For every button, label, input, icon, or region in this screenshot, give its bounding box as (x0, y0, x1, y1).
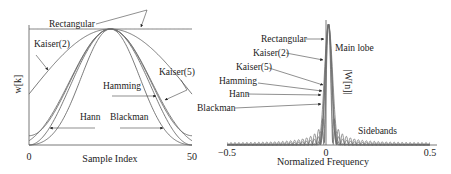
right-annotation-hamming: Hamming (219, 76, 257, 86)
right-arrow-kaiser2 (286, 53, 323, 60)
right-annotation-rectangular: Rectangular (261, 34, 308, 44)
figure: 0 50 Sample Index w[k] Rectangular Kaise… (0, 0, 451, 174)
right-series-kaiser2 (227, 24, 430, 145)
left-arrow-kaiser5 (165, 80, 187, 100)
right-arrow-hann (247, 94, 321, 95)
right-annotation-kaiser5: Kaiser(5) (236, 62, 272, 73)
right-arrow-blackman (235, 104, 321, 108)
left-x-axis-label: Sample Index (82, 153, 137, 164)
left-annotation-rectangular: Rectangular (49, 19, 96, 29)
left-x-tick-50: 50 (187, 151, 197, 162)
left-y-axis-label: w[k] (12, 75, 23, 94)
left-arrow-kaiser2 (36, 55, 48, 70)
left-annotation-kaiser5: Kaiser(5) (159, 67, 195, 78)
right-x-tick-pos: 0.5 (424, 147, 437, 158)
right-arrow-hamming (258, 83, 322, 91)
left-annotation-hamming: Hamming (103, 81, 141, 91)
right-annotation-sidebands: Sidebands (358, 126, 397, 136)
right-arrow-kaiser5 (269, 68, 323, 85)
right-series-kaiser5 (227, 24, 430, 145)
right-series-hamming (227, 24, 430, 145)
left-annotation-hann: Hann (80, 112, 101, 122)
window-frequency-plot: −0.5 0 0.5 Normalized Frequency |W[n]| R… (197, 20, 437, 167)
window-time-plot: 0 50 Sample Index w[k] Rectangular Kaise… (12, 10, 197, 164)
right-x-axis-label: Normalized Frequency (277, 156, 369, 167)
left-annotation-kaiser2: Kaiser(2) (34, 39, 70, 50)
left-x-tick-0: 0 (27, 151, 32, 162)
left-arrow-rectangular (96, 10, 147, 27)
right-annotation-blackman: Blackman (197, 103, 236, 113)
right-annotation-kaiser2: Kaiser(2) (253, 48, 289, 59)
right-x-tick-neg: −0.5 (218, 147, 236, 158)
left-annotation-blackman: Blackman (110, 112, 149, 122)
right-series-hann (227, 24, 430, 145)
right-annotation-hann: Hann (229, 89, 250, 99)
right-y-axis-label: |W[n]| (343, 69, 354, 94)
right-series-blackman (227, 24, 430, 145)
right-series-rectangular (227, 24, 430, 145)
right-annotation-main-lobe: Main lobe (335, 43, 374, 53)
right-curves (227, 24, 430, 145)
